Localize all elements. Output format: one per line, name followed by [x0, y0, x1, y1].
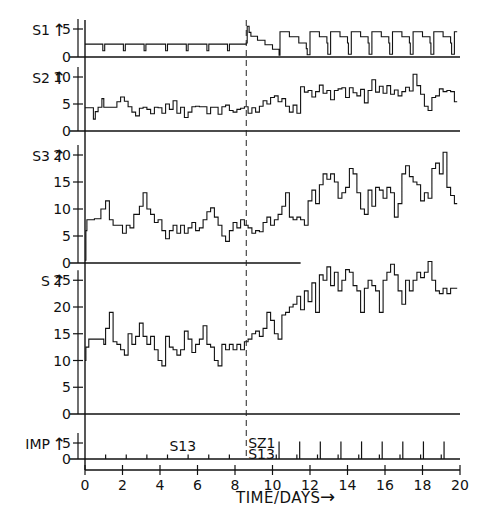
series-line-s — [85, 262, 457, 366]
y-axis-label: S2 — [32, 70, 50, 86]
y-tick-label: 0 — [62, 123, 71, 139]
x-axis-label: TIME/DAYS — [235, 489, 321, 507]
x-tick-label: 2 — [118, 477, 127, 493]
x-tick-label: 6 — [193, 477, 202, 493]
x-tick-label: 18 — [414, 477, 432, 493]
x-tick-label: 16 — [376, 477, 394, 493]
y-tick-label: 10 — [53, 353, 71, 369]
y-tick-label: 0 — [62, 406, 71, 422]
up-arrow-icon: ↑ — [52, 271, 66, 291]
y-tick-label: 15 — [53, 326, 71, 342]
series-line-s2 — [85, 74, 457, 119]
y-axis-label: IMP — [25, 436, 50, 452]
up-arrow-icon: ↑ — [52, 68, 66, 88]
series-line-s1 — [85, 26, 457, 55]
annotation-label: S13 — [248, 446, 275, 462]
y-axis-label: S — [41, 273, 50, 289]
y-axis-label: S3 — [32, 148, 50, 164]
chart-panels: 05S1↑0510S2↑05101520S3↑0510152025S↑05IMP… — [25, 19, 460, 470]
y-tick-label: 5 — [62, 228, 71, 244]
series-line-s3 — [85, 152, 457, 260]
y-tick-label: 5 — [62, 96, 71, 112]
x-tick-label: 20 — [451, 477, 469, 493]
y-tick-label: 15 — [53, 174, 71, 190]
up-arrow-icon: ↑ — [52, 434, 66, 454]
annotation-label: S13 — [169, 438, 196, 454]
x-axis-arrow-icon: → — [320, 486, 335, 507]
up-arrow-icon: ↑ — [52, 146, 66, 166]
panel-s3: 05101520S3↑ — [32, 145, 457, 271]
chart-figure: 05S1↑0510S2↑05101520S3↑0510152025S↑05IMP… — [0, 0, 485, 524]
panel-s: 0510152025S↑ — [41, 262, 460, 423]
y-tick-label: 5 — [62, 379, 71, 395]
panel-imp: 05IMP↑S13SZ1S13 — [25, 433, 460, 467]
x-tick-label: 0 — [81, 477, 90, 493]
y-tick-label: 0 — [62, 49, 71, 65]
y-tick-label: 10 — [53, 201, 71, 217]
y-tick-label: 0 — [62, 255, 71, 271]
x-tick-label: 4 — [156, 477, 165, 493]
up-arrow-icon: ↑ — [52, 20, 66, 40]
y-tick-label: 20 — [53, 299, 71, 315]
x-tick-label: 14 — [339, 477, 357, 493]
y-axis-label: S1 — [32, 22, 50, 38]
